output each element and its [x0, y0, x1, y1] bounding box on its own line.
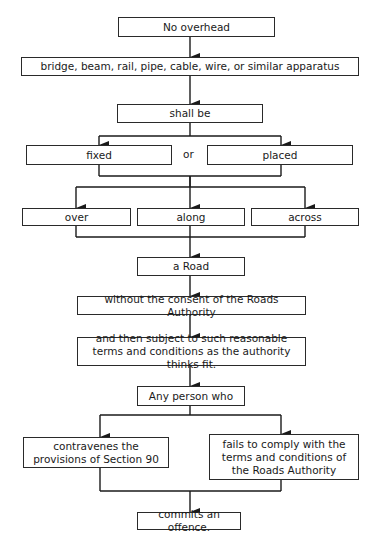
node-fixed: fixed	[26, 145, 172, 165]
node-contravenes: contravenes the provisions of Section 90	[23, 437, 169, 468]
node-placed: placed	[207, 145, 353, 165]
node-fails-comply: fails to comply with the terms and condi…	[209, 434, 359, 480]
or-label: or	[183, 148, 194, 160]
node-shall-be: shall be	[117, 104, 263, 123]
node-commits-offence: commits an offence.	[137, 512, 241, 530]
node-subject-terms: and then subject to such reasonable term…	[77, 337, 306, 366]
node-apparatus: bridge, beam, rail, pipe, cable, wire, o…	[21, 57, 359, 76]
node-across: across	[251, 208, 359, 226]
node-without-consent: without the consent of the Roads Authori…	[77, 296, 306, 315]
node-along: along	[137, 208, 245, 226]
node-any-person: Any person who	[137, 386, 245, 406]
node-over: over	[22, 208, 131, 226]
node-a-road: a Road	[137, 257, 245, 276]
node-no-overhead: No overhead	[118, 17, 275, 37]
